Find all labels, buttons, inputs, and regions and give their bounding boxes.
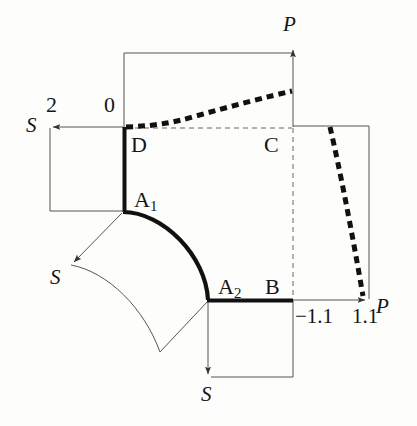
point-label-A1-subscript: 1: [150, 198, 157, 214]
inner-sector-edge: [160, 301, 208, 352]
point-label-A1-text: A: [134, 187, 150, 212]
diagram-vector-layer: [0, 0, 417, 426]
s-axis-left-label: S: [26, 115, 37, 136]
point-label-A2-subscript: 2: [234, 285, 241, 301]
point-label-D: D: [131, 134, 147, 156]
left-frame-box: [50, 128, 123, 211]
inner-sector-arc: [71, 265, 160, 352]
diagram-canvas: S 2 0 P D C A1 A2 B −1.1 1.1 P S S: [0, 0, 417, 426]
top-frame-box: [124, 53, 292, 127]
point-label-B: B: [265, 276, 280, 298]
point-label-A1: A1: [134, 189, 157, 214]
p-axis-right-label: P: [376, 296, 389, 317]
bottom-frame-box: [211, 300, 293, 377]
point-label-C: C: [264, 134, 279, 156]
s-axis-diagonal-label: S: [50, 267, 61, 288]
s-axis-diagonal-line: [74, 213, 122, 262]
thick-dashed-upper-curve: [126, 91, 292, 127]
point-label-A2: A2: [218, 276, 241, 301]
s-axis-bottom-label: S: [201, 384, 212, 405]
p-minus-tick-label: −1.1: [295, 306, 333, 327]
bold-arc-A1-A2: [123, 212, 208, 300]
point-label-A2-text: A: [218, 274, 234, 299]
origin-label: 0: [104, 94, 115, 116]
s-value-2-label: 2: [46, 94, 57, 116]
thick-dashed-right-curve: [330, 127, 363, 296]
p-axis-top-label: P: [283, 14, 296, 35]
p-plus-tick-label: 1.1: [352, 306, 378, 327]
